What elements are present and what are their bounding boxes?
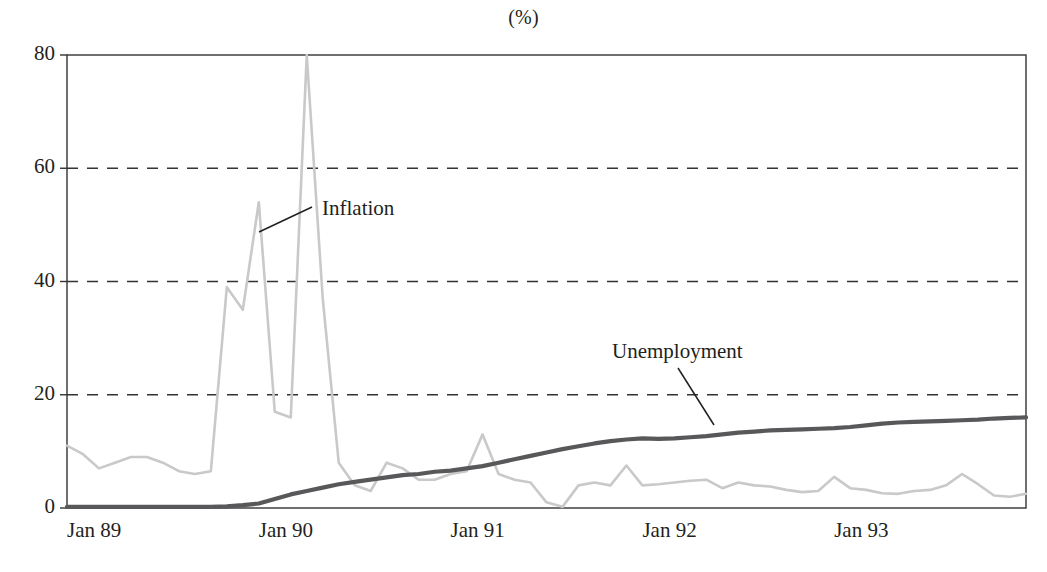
x-tick-label: Jan 90 (259, 518, 313, 543)
y-tick-label: 80 (3, 41, 55, 66)
x-tick-label: Jan 91 (451, 518, 505, 543)
leader-line-inflation (259, 207, 312, 232)
series-annotation-inflation: Inflation (322, 196, 394, 221)
chart-figure: (%) 020406080 Jan 89Jan 90Jan 91Jan 92Ja… (0, 0, 1047, 572)
y-tick-label: 40 (3, 268, 55, 293)
y-tick-marks (60, 55, 67, 508)
leader-line-unemployment (678, 368, 714, 425)
x-tick-label: Jan 93 (834, 518, 888, 543)
y-tick-label: 20 (3, 381, 55, 406)
gridlines (67, 168, 1026, 395)
series-annotation-unemployment: Unemployment (612, 339, 743, 364)
y-tick-label: 60 (3, 154, 55, 179)
annotation-leader-lines (259, 207, 714, 425)
chart-plot-area (0, 0, 1047, 572)
x-tick-label: Jan 89 (67, 518, 121, 543)
x-tick-label: Jan 92 (642, 518, 696, 543)
y-tick-label: 0 (3, 494, 55, 519)
